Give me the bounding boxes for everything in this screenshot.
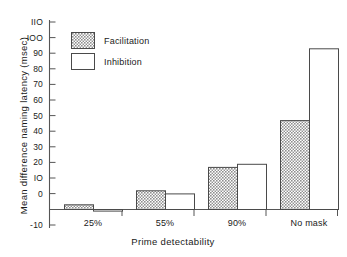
x-tick-label-25: 25% [84,218,103,228]
bar-inhibition-55 [166,194,195,210]
legend-swatch-facilitation [72,33,95,49]
bar-inhibition-25 [94,210,123,212]
x-tick-label-55: 55% [156,218,175,228]
bar-inhibition-no-mask [310,49,339,210]
bar-facilitation-55 [137,191,166,210]
bar-group-55 [137,191,195,210]
x-tick-label-no-mask: No mask [291,218,328,228]
legend-swatches [72,33,95,70]
legend-swatch-inhibition [72,54,95,70]
legend-label-inhibition: Inhibition [104,57,142,67]
y-axis-title: Mean difference naming latency (msec) [18,31,29,221]
bar-group-90 [209,164,267,209]
y-tick-label: -10 [17,220,43,230]
bar-group-no-mask [281,49,339,210]
chart-figure: IIO IOO 90 80 70 60 50 40 30 20 IO 0 -10… [0,0,347,257]
bar-inhibition-90 [238,164,267,209]
bar-facilitation-no-mask [281,121,310,210]
bar-group-25 [65,205,123,211]
bar-facilitation-25 [65,205,94,210]
y-tick-label: IIO [17,17,43,27]
y-axis-ticks [50,22,56,225]
legend-label-facilitation: Facilitation [104,36,149,46]
x-axis-title: Prime detectability [131,236,214,247]
x-tick-label-90: 90% [228,218,247,228]
x-axis-ticks [122,210,338,217]
bar-facilitation-90 [209,167,238,209]
